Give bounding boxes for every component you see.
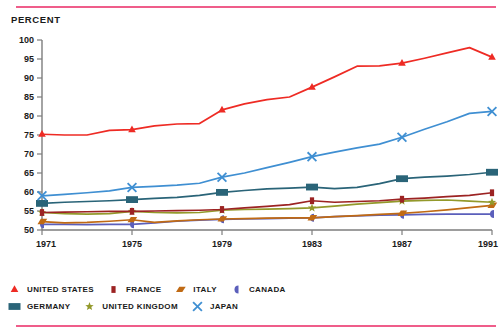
legend-marker-star-icon (83, 301, 96, 312)
chart-plot-area: 5055606570758085909510019711975197919831… (0, 32, 503, 272)
legend-marker-halfcircle-icon (230, 284, 243, 295)
legend-item-canada: CANADA (230, 284, 286, 295)
x-axis-tick-label: 1975 (122, 239, 142, 249)
y-axis-tick-label: 65 (24, 168, 34, 178)
legend-marker-triangle-icon (8, 284, 21, 295)
x-axis-tick-label: 1987 (392, 239, 412, 249)
legend-marker-square-icon (107, 284, 120, 295)
series-line (42, 111, 492, 195)
legend-item-france: FRANCE (107, 284, 161, 295)
data-point-marker (308, 204, 316, 212)
data-point-marker (400, 196, 404, 203)
legend-row-2: GERMANYUNITED KINGDOMJAPAN (8, 298, 503, 315)
x-axis-tick-label: 1991 (478, 239, 498, 249)
legend-row-1: UNITED STATESFRANCEITALYCANADA (8, 281, 503, 298)
data-point-marker (220, 206, 224, 213)
line-chart: 5055606570758085909510019711975197919831… (0, 32, 503, 272)
legend-marker-x-icon (191, 301, 204, 312)
data-point-marker (86, 302, 94, 310)
series-canada (40, 210, 494, 228)
data-point-marker (398, 133, 407, 142)
legend-label: ITALY (193, 285, 217, 294)
bottom-divider-rule (16, 325, 496, 327)
data-point-marker (216, 189, 228, 196)
series-line (42, 214, 492, 225)
data-point-marker (130, 208, 134, 215)
y-axis-tick-label: 90 (24, 73, 34, 83)
data-point-marker (111, 286, 115, 293)
y-axis-tick-label: 95 (24, 54, 34, 64)
y-axis-tick-label: 100 (19, 35, 34, 45)
legend-item-japan: JAPAN (191, 301, 238, 312)
legend-label: UNITED KINGDOM (102, 302, 178, 311)
data-point-marker (234, 286, 238, 294)
data-point-marker (176, 287, 186, 292)
legend-marker-parallelogram-icon (174, 284, 187, 295)
legend-item-italy: ITALY (174, 284, 217, 295)
x-axis-tick-label: 1983 (302, 239, 322, 249)
data-point-marker (36, 200, 48, 207)
legend-item-united-states: UNITED STATES (8, 284, 94, 295)
x-axis-tick-label: 1979 (212, 239, 232, 249)
data-point-marker (486, 169, 498, 176)
data-point-marker (40, 209, 44, 216)
legend-item-united-kingdom: UNITED KINGDOM (83, 301, 178, 312)
chart-legend: UNITED STATESFRANCEITALYCANADA GERMANYUN… (8, 281, 503, 315)
top-divider-rule (16, 6, 496, 8)
data-point-marker (126, 196, 138, 203)
legend-label: JAPAN (210, 302, 238, 311)
y-axis-tick-label: 55 (24, 206, 34, 216)
y-axis-unit-label: PERCENT (11, 14, 61, 25)
data-point-marker (9, 303, 21, 310)
y-axis-tick-label: 85 (24, 92, 34, 102)
data-point-marker (306, 184, 318, 191)
legend-marker-rect-icon (8, 301, 21, 312)
series-united-states (38, 48, 496, 137)
data-point-marker (38, 130, 46, 137)
series-japan (38, 107, 497, 200)
x-axis-tick-label: 1971 (36, 239, 56, 249)
y-axis-tick-label: 70 (24, 149, 34, 159)
legend-item-germany: GERMANY (8, 301, 70, 312)
series-line (42, 48, 492, 135)
legend-label: FRANCE (126, 285, 161, 294)
data-point-marker (11, 285, 19, 292)
data-point-marker (396, 175, 408, 182)
y-axis-tick-label: 80 (24, 111, 34, 121)
data-point-marker (193, 302, 202, 311)
legend-label: GERMANY (27, 302, 70, 311)
y-axis-tick-label: 50 (24, 225, 34, 235)
legend-label: UNITED STATES (27, 285, 94, 294)
y-axis-tick-label: 60 (24, 187, 34, 197)
data-point-marker (310, 197, 314, 204)
legend-label: CANADA (249, 285, 286, 294)
y-axis-tick-label: 75 (24, 130, 34, 140)
data-point-marker (490, 189, 494, 196)
data-point-marker (490, 210, 494, 218)
